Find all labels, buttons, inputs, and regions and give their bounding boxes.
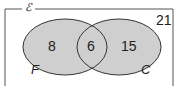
set-f-label: F [31,62,39,77]
universal-set-label: ℰ [25,1,32,14]
c-only-count: 15 [121,38,137,54]
set-c-label: C [141,62,150,77]
intersection-count: 6 [87,38,95,54]
f-only-count: 8 [48,38,56,54]
outside-count: 21 [156,12,172,28]
